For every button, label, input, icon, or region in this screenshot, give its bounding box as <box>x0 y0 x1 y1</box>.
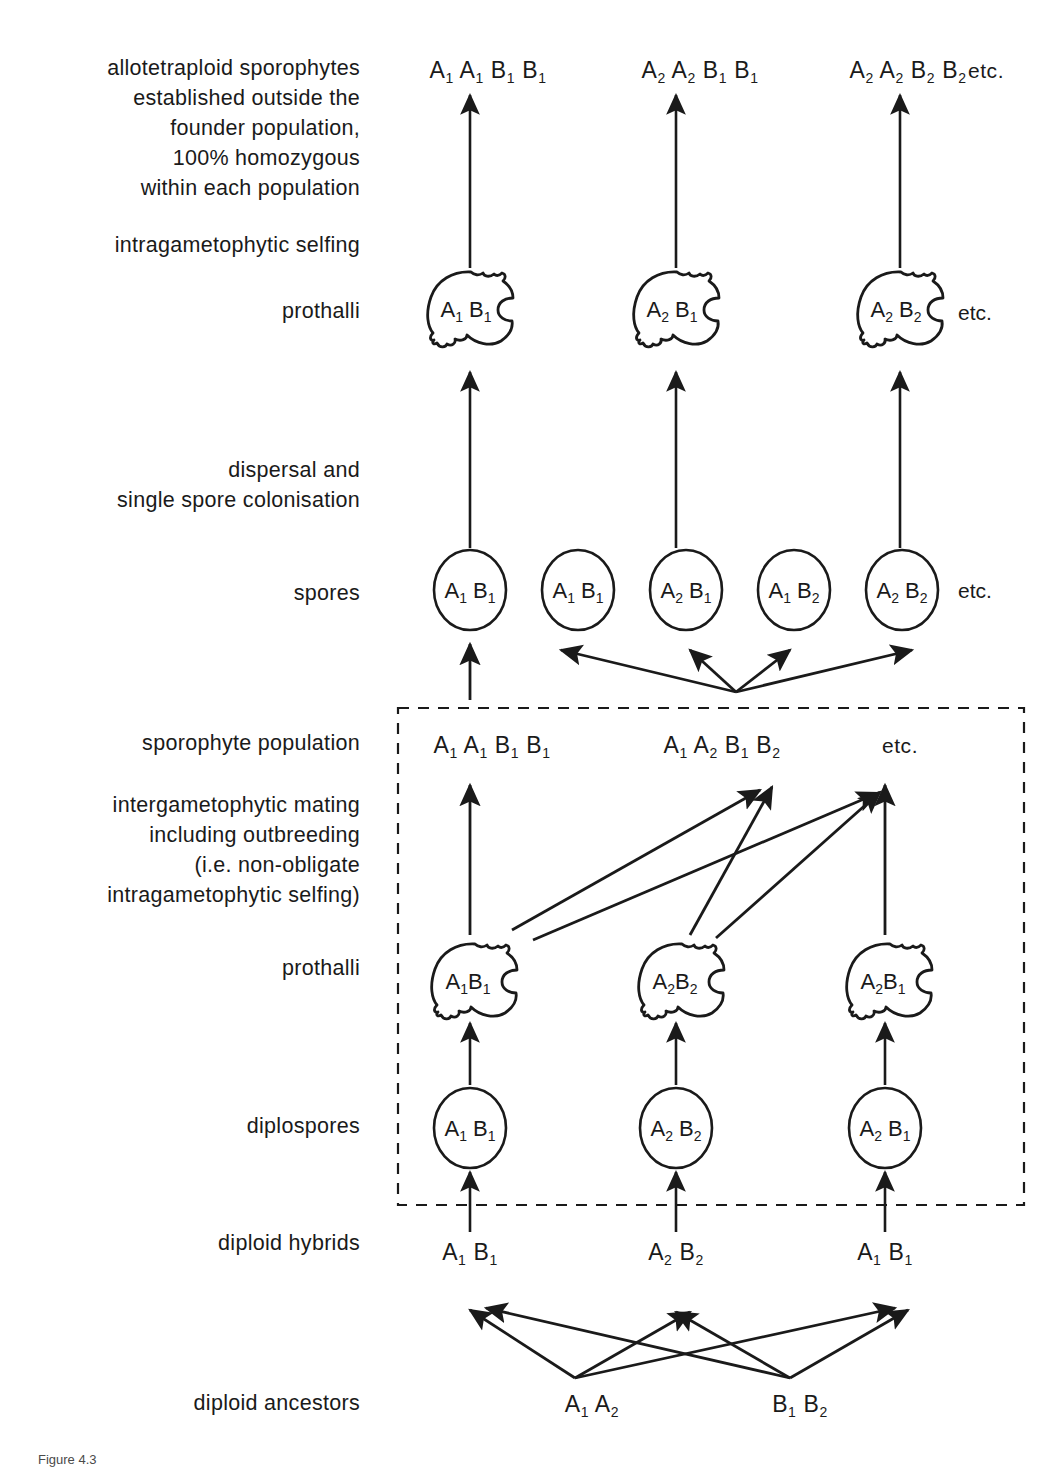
svg-text:A2 A2 B2 B2: A2 A2 B2 B2 <box>849 57 966 86</box>
etc-label: etc. <box>882 734 918 757</box>
mating-arrow-cross <box>690 787 772 935</box>
label-line: 100% homozygous <box>173 146 360 170</box>
arrows-dispersal-colonisation <box>470 372 900 548</box>
label-line: single spore colonisation <box>117 488 360 512</box>
genotype-label: A1 A2 B1 B2 <box>565 1391 828 1420</box>
etc-label: etc. <box>968 59 1004 82</box>
etc-label: etc. <box>958 301 992 324</box>
cross-arrow <box>470 1310 575 1378</box>
figure-caption: Figure 4.3 <box>38 1452 97 1467</box>
arrows-unreduced-spore-formation <box>470 1172 885 1232</box>
svg-text:A1 A1 B1 B1: A1 A1 B1 B1 <box>429 57 546 86</box>
svg-text:A1 B1: A1 B1 <box>442 1239 498 1268</box>
label-line: (i.e. non-obligate <box>194 853 360 877</box>
svg-text:A1 A2 B1 B2: A1 A2 B1 B2 <box>663 732 780 761</box>
arrows-diplospore-germination <box>470 1023 885 1085</box>
label-line: dispersal and <box>228 458 360 482</box>
cross-arrow <box>676 1312 790 1378</box>
svg-text:A2 A2 B1 B1: A2 A2 B1 B1 <box>641 57 758 86</box>
label-prothalli-upper: prothalli <box>282 299 360 323</box>
genotype-label: A1 B1 A2 B2 A2 B1 <box>444 1116 910 1144</box>
fern-allopolyploidy-diagram: allotetraploid sporophytes established o… <box>0 0 1053 1467</box>
row-prothalli-lower: A1B1 A2B2 A2B1 <box>432 944 932 1019</box>
svg-text:A2 B2: A2 B2 <box>648 1239 704 1268</box>
arrows-intragametophytic-selfing <box>470 95 900 268</box>
row-allotetraploid-sporophytes: A1 A1 B1 B1 A2 A2 B1 B1 A2 A2 B2 B2 etc. <box>429 57 1004 86</box>
row-labels: allotetraploid sporophytes established o… <box>107 56 360 1415</box>
label-diplospores: diplospores <box>247 1114 360 1138</box>
mating-arrow-cross <box>533 793 878 940</box>
label-intergametophytic-mating: intergametophytic mating including outbr… <box>107 793 360 907</box>
svg-text:B1 B2: B1 B2 <box>772 1391 828 1420</box>
label-prothalli-lower: prothalli <box>282 956 360 980</box>
label-line: established outside the <box>133 86 360 110</box>
label-allotetraploid-sporophytes: allotetraploid sporophytes established o… <box>107 56 360 200</box>
label-line: intragametophytic selfing) <box>107 883 360 907</box>
label-dispersal-colonisation: dispersal and single spore colonisation <box>117 458 360 512</box>
genotype-label: A1 A1 B1 B1 A1 A2 B1 B2 <box>433 732 780 761</box>
label-spores: spores <box>294 581 360 605</box>
label-sporophyte-population: sporophyte population <box>142 731 360 755</box>
label-line: founder population, <box>170 116 360 140</box>
svg-text:A1 A1 B1 B1: A1 A1 B1 B1 <box>433 732 550 761</box>
cross-arrow <box>575 1312 690 1378</box>
cross-arrow <box>790 1310 908 1378</box>
row-diploid-ancestors: A1 A2 B1 B2 <box>565 1391 828 1420</box>
etc-label: etc. <box>958 579 992 602</box>
arrows-hybridisation-crosses <box>470 1308 908 1378</box>
svg-text:A1 B1: A1 B1 <box>857 1239 913 1268</box>
arrows-intergametophytic-mating <box>470 785 885 940</box>
svg-text:A1 A2: A1 A2 <box>565 1391 619 1420</box>
label-line: intergametophytic mating <box>113 793 360 817</box>
row-prothalli-upper: A1 B1 A2 B1 A2 B2 etc. <box>428 272 992 347</box>
cross-arrow <box>575 1308 895 1378</box>
row-spores: A1 B1 A1 B1 A2 B1 A1 B2 A2 B2 etc. <box>434 550 992 630</box>
genotype-label: A1 B1 A1 B1 A2 B1 A1 B2 A2 B2 <box>444 578 927 606</box>
row-diploid-hybrids: A1 B1 A2 B2 A1 B1 <box>442 1239 913 1268</box>
label-line: allotetraploid sporophytes <box>107 56 360 80</box>
row-sporophyte-population: A1 A1 B1 B1 A1 A2 B1 B2 etc. <box>433 732 918 761</box>
label-diploid-ancestors: diploid ancestors <box>194 1391 360 1415</box>
label-line: within each population <box>140 176 360 200</box>
mating-arrow-cross <box>716 792 880 938</box>
label-intragametophytic-selfing: intragametophytic selfing <box>115 233 360 257</box>
genotype-label: A1 A1 B1 B1 A2 A2 B1 B1 A2 A2 B2 B2 <box>429 57 966 86</box>
cross-arrow <box>486 1308 790 1378</box>
label-line: including outbreeding <box>149 823 360 847</box>
meiosis-arrow-fan <box>561 650 736 692</box>
label-diploid-hybrids: diploid hybrids <box>218 1231 360 1255</box>
genotype-label: A1 B1 A2 B2 A1 B1 <box>442 1239 913 1268</box>
arrows-meiosis-fan <box>470 644 912 700</box>
row-diplospores: A1 B1 A2 B2 A2 B1 <box>434 1088 921 1168</box>
diagram-canvas: allotetraploid sporophytes established o… <box>0 0 1053 1467</box>
